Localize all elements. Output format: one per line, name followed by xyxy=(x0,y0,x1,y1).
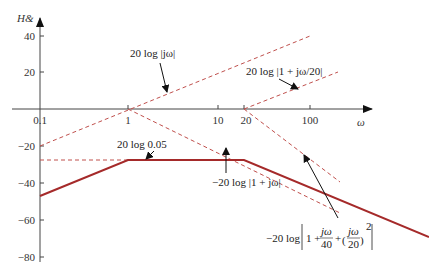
annotation-m20log-1-jw: −20 log |1 + jω| xyxy=(212,176,281,188)
x-tick-0.1: 0.1 xyxy=(33,114,47,126)
x-tick-20: 20 xyxy=(241,114,253,126)
x-tick-1: 1 xyxy=(125,114,131,126)
y-tick-m20: −20 xyxy=(18,140,36,152)
arrow-20log-1-jw20 xyxy=(279,79,298,89)
line-20log-1-jw20 xyxy=(244,72,338,109)
annotation-20log-jw: 20 log |jω| xyxy=(130,47,175,59)
y-tick-m40: −40 xyxy=(18,177,36,189)
arrow-20log-0.05 xyxy=(146,151,154,159)
y-tick-20: 20 xyxy=(24,66,36,78)
y-axis-label: H& xyxy=(16,12,34,24)
bode-plot: H& ω 40 20 −20 −40 −60 −80 0.1 1 10 20 1… xyxy=(0,0,429,278)
svg-text:20: 20 xyxy=(348,238,360,250)
x-tick-100: 100 xyxy=(302,114,319,126)
x-axis-label: ω xyxy=(357,116,365,128)
line-m20log-quadratic xyxy=(244,109,340,182)
svg-text:jω: jω xyxy=(319,225,332,237)
annotation-20log-0.05: 20 log 0.05 xyxy=(117,138,167,150)
annotation-m20log-quadratic: −20 log 1 + jω 40 + ( jω 20 ) 2 xyxy=(266,220,372,250)
arrow-20log-jw xyxy=(160,63,167,92)
x-ticks xyxy=(128,105,310,109)
y-tick-m60: −60 xyxy=(18,214,36,226)
x-tick-10: 10 xyxy=(213,114,225,126)
y-tick-40: 40 xyxy=(24,30,36,42)
svg-text:1 +: 1 + xyxy=(306,232,320,244)
svg-text:−20 log: −20 log xyxy=(266,232,301,244)
svg-text:40: 40 xyxy=(321,238,333,250)
svg-text:+: + xyxy=(335,232,341,244)
annotation-20log-1-jw20: 20 log |1 + jω/20| xyxy=(246,65,323,77)
svg-text:jω: jω xyxy=(346,225,359,237)
y-tick-m80: −80 xyxy=(18,251,36,263)
svg-text:(: ( xyxy=(342,234,346,247)
svg-text:2: 2 xyxy=(366,220,372,232)
svg-text:): ) xyxy=(360,234,364,247)
y-ticks xyxy=(40,36,44,257)
